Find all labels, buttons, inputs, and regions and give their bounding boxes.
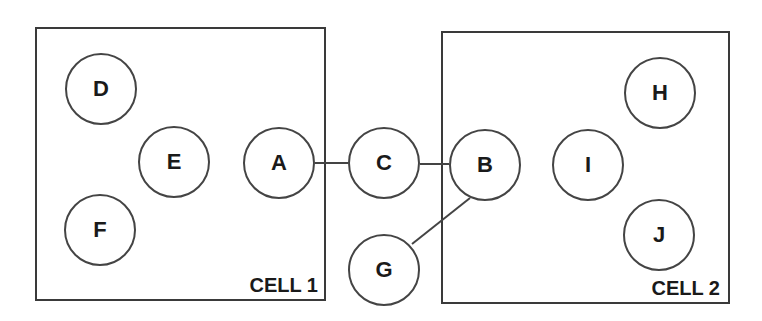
node-f: F: [64, 194, 136, 266]
node-h: H: [624, 57, 696, 129]
edge-b-g: [412, 198, 470, 244]
node-i: I: [552, 129, 624, 201]
node-a: A: [243, 127, 315, 199]
node-c: C: [348, 127, 420, 199]
node-d: D: [65, 53, 137, 125]
node-j: J: [623, 199, 695, 271]
node-b: B: [449, 129, 521, 201]
node-e: E: [138, 126, 210, 198]
node-g: G: [348, 234, 420, 306]
